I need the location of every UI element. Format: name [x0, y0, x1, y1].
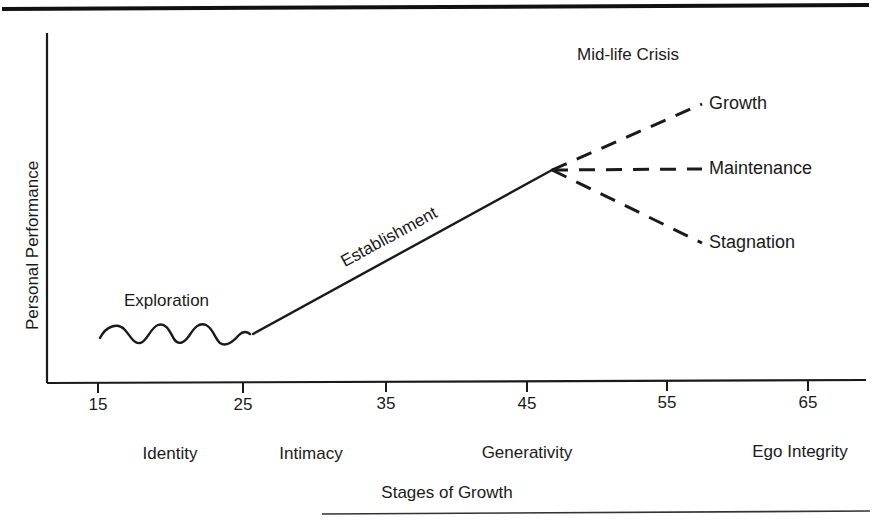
x-axis-title: Stages of Growth: [381, 484, 512, 501]
annotation-midlife-crisis: Mid-life Crisis: [577, 46, 679, 63]
top-rule: [2, 5, 869, 9]
series-label-maintenance: Maintenance: [709, 159, 812, 177]
stage-label-generativity: Generativity: [482, 444, 573, 461]
x-tick-label-25: 25: [234, 396, 253, 413]
y-axis-title: Personal Performance: [24, 161, 41, 330]
x-axis-line: [47, 380, 866, 383]
stage-label-intimacy: Intimacy: [279, 445, 342, 462]
series-establishment-line: [253, 170, 552, 334]
career-stages-figure: Personal Performance Exploration Establi…: [0, 0, 872, 520]
series-growth-line: [552, 104, 702, 170]
series-stagnation-line: [552, 170, 702, 243]
x-tick-label-35: 35: [377, 395, 396, 412]
x-tick-label-65: 65: [799, 394, 818, 411]
x-tick-label-15: 15: [89, 396, 108, 413]
x-tick-label-55: 55: [658, 394, 677, 411]
stage-label-identity: Identity: [143, 445, 198, 462]
series-label-stagnation: Stagnation: [709, 233, 795, 251]
bottom-rule: [322, 511, 870, 514]
series-exploration-wave: [100, 324, 250, 344]
x-tick-label-45: 45: [518, 395, 537, 412]
series-label-growth: Growth: [709, 94, 767, 112]
annotation-exploration: Exploration: [124, 292, 209, 309]
stage-label-ego-integrity: Ego Integrity: [752, 443, 847, 460]
chart-canvas: [0, 0, 872, 520]
series-maintenance-line: [552, 169, 702, 170]
